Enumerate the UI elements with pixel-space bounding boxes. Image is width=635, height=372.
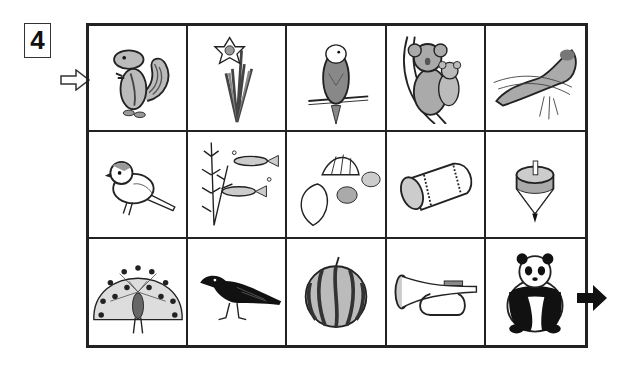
cell-daffodil[interactable]: daffodil — [188, 26, 287, 132]
drum-icon — [389, 138, 481, 230]
cell-spinning-top[interactable]: spinning top — [486, 132, 585, 238]
bugle-icon — [389, 246, 481, 338]
panda-icon — [489, 246, 581, 338]
chipmunk-icon — [92, 32, 184, 124]
cell-crow[interactable]: crow — [188, 239, 287, 345]
sea-otter-icon — [489, 32, 581, 124]
cell-drum[interactable]: drum — [387, 132, 486, 238]
cell-bugle[interactable]: bugle — [387, 239, 486, 345]
crow-icon — [191, 246, 283, 338]
cell-sea-otter[interactable]: sea otter — [486, 26, 585, 132]
cell-peacock[interactable]: peacock — [89, 239, 188, 345]
spinning-top-icon — [489, 138, 581, 230]
watermelon-icon — [290, 246, 382, 338]
cell-watermelon[interactable]: watermelon — [287, 239, 386, 345]
cell-sparrow[interactable]: sparrow — [89, 132, 188, 238]
medaka-fish-icon — [191, 138, 283, 230]
picture-grid: chipmunk daffodil budgerigar — [86, 23, 588, 348]
cell-chipmunk[interactable]: chipmunk — [89, 26, 188, 132]
cell-koala[interactable]: koala — [387, 26, 486, 132]
cell-panda[interactable]: panda — [486, 239, 585, 345]
cell-seashells[interactable]: seashells — [287, 132, 386, 238]
end-arrow-icon — [576, 284, 608, 312]
budgerigar-icon — [290, 32, 382, 124]
sparrow-icon — [92, 138, 184, 230]
seashells-icon — [290, 138, 382, 230]
cell-medaka[interactable]: medaka — [188, 132, 287, 238]
koala-icon — [389, 32, 481, 124]
peacock-icon — [92, 246, 184, 338]
cell-budgerigar[interactable]: budgerigar — [287, 26, 386, 132]
puzzle-number: 4 — [24, 23, 51, 58]
daffodil-icon — [191, 32, 283, 124]
